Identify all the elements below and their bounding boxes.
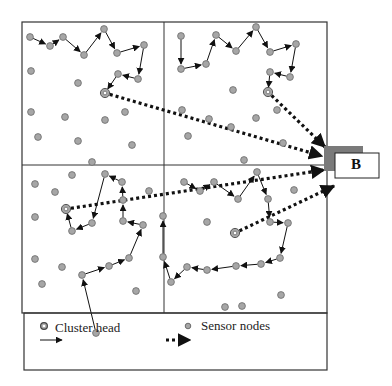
sensor-node-icon — [178, 66, 185, 73]
cluster-head-to-base-links — [71, 94, 334, 230]
chain-arrow — [268, 75, 269, 87]
sensor-node-icon — [141, 42, 148, 49]
sensor-node-icon — [233, 263, 240, 270]
chain-arrow — [187, 184, 196, 189]
sensor-node-icon — [253, 24, 260, 31]
sensor-node-icon — [60, 34, 67, 41]
chain-arrow — [291, 47, 296, 72]
cluster-head-center — [103, 91, 107, 95]
sensor-node-icon — [102, 117, 109, 124]
sensor-node-icon — [120, 218, 127, 225]
sensor-node-icon — [235, 196, 242, 203]
chain-arrow — [258, 30, 268, 48]
sensor-node-icon — [181, 179, 188, 186]
sensor-node-icon — [62, 114, 69, 121]
chain-arrow — [108, 77, 116, 89]
sensor-node-icon — [213, 32, 220, 39]
sensor-node-icon — [126, 255, 133, 262]
chain-arrow — [128, 222, 140, 224]
sensor-node-icon — [79, 272, 86, 279]
network-field-frame — [22, 22, 327, 313]
chain-arrow — [238, 31, 253, 49]
sensor-node-icon — [222, 304, 229, 311]
chain-arrow — [175, 269, 185, 278]
sensor-node-icon — [52, 189, 59, 196]
sensor-node-icon — [179, 107, 186, 114]
cluster-head-center — [233, 231, 237, 235]
sensor-node-icon — [265, 196, 272, 203]
chain-arrow — [93, 177, 104, 218]
sensor-node-icon — [89, 159, 96, 166]
sensor-node-icon — [168, 279, 175, 286]
sensor-node-icon — [254, 169, 261, 176]
chain-arrow — [273, 45, 291, 51]
sensor-node-icon — [278, 292, 285, 299]
chain-arrow — [184, 65, 201, 68]
chain-arrow — [77, 224, 89, 229]
sensor-node-icon — [69, 172, 76, 179]
chain-arrow — [241, 264, 258, 265]
chain-arrow — [192, 268, 204, 270]
sensor-node-icon — [267, 69, 274, 76]
chain-arrow — [240, 176, 254, 196]
field-border — [22, 22, 327, 313]
sensor-node-icon — [119, 179, 126, 186]
sensor-node-icon — [267, 219, 274, 226]
sensor-node-icon — [160, 213, 167, 220]
sensor-node-icon — [160, 254, 167, 261]
sensor-node-icon — [89, 220, 96, 227]
sensor-nodes — [27, 24, 300, 337]
legend-sensor-node-icon — [185, 323, 191, 329]
sensor-node-icon — [291, 187, 298, 194]
cluster-head-center — [266, 90, 270, 94]
chain-arrow — [164, 262, 169, 279]
legend-cluster-head-center — [43, 325, 46, 328]
chain-arrow — [66, 39, 81, 52]
sensor-node-icon — [122, 109, 129, 116]
sensor-node-icon — [140, 222, 147, 229]
chain-arrow — [112, 260, 124, 265]
sensor-node-icon — [178, 33, 185, 40]
sensor-node-icon — [32, 256, 39, 263]
sensor-node-icon — [287, 74, 294, 81]
sensor-node-icon — [32, 214, 39, 221]
chain-arrow — [281, 226, 287, 253]
chain-arrow — [130, 230, 141, 255]
chain-arrow — [212, 266, 233, 269]
wsn-cluster-diagram: B Cluster head Sensor nodes — [0, 0, 392, 386]
sensor-node-icon — [32, 181, 39, 188]
sensor-node-icon — [258, 261, 265, 268]
chain-arrow — [207, 40, 214, 61]
chain-arrow — [139, 48, 144, 74]
chain-arrow — [120, 46, 139, 52]
chain-arrow — [85, 268, 104, 274]
sensor-node-icon — [204, 267, 211, 274]
chain-arrow — [268, 202, 269, 217]
chain-arrow — [109, 176, 118, 180]
sensor-node-icon — [75, 80, 82, 87]
chain-arrow — [273, 222, 283, 223]
sensor-node-icon — [211, 179, 218, 186]
sensor-node-icon — [135, 76, 142, 83]
sensor-node-icon — [293, 41, 300, 48]
cluster-head-center — [64, 207, 68, 211]
sensor-node-icon — [204, 219, 211, 226]
sensor-node-icon — [114, 50, 121, 57]
sensor-node-icon — [146, 188, 153, 195]
sensor-node-icon — [228, 124, 235, 131]
sensor-node-icon — [253, 115, 260, 122]
sensor-node-icon — [241, 157, 248, 164]
legend-sensor-nodes-label: Sensor nodes — [201, 318, 270, 334]
legend-cluster-head-label: Cluster head — [55, 320, 120, 336]
chain-arrow — [275, 73, 287, 76]
sensor-node-icon — [206, 116, 213, 123]
sensor-node-icon — [285, 220, 292, 227]
sensor-node-icon — [280, 140, 287, 147]
sensor-node-icon — [28, 68, 35, 75]
sensor-node-icon — [101, 26, 108, 33]
sensor-node-icon — [277, 255, 284, 262]
sensor-node-icon — [115, 71, 122, 78]
sensor-node-icon — [233, 48, 240, 55]
sensor-node-icon — [59, 264, 66, 271]
chain-arrow — [266, 259, 277, 263]
